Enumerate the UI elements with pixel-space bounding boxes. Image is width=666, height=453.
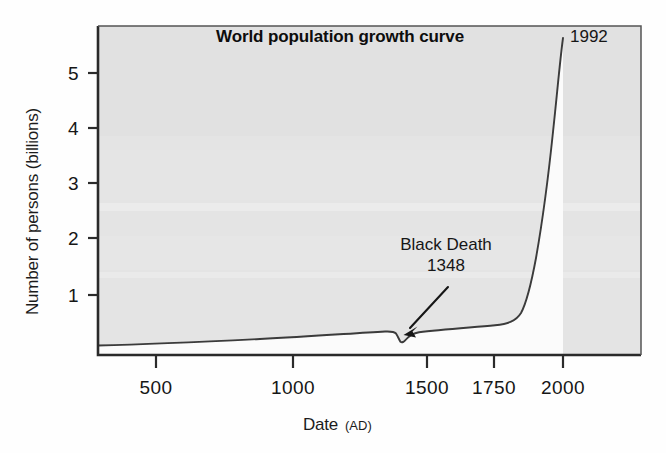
x-axis-title-paren: (AD) [345, 418, 372, 433]
x-axis-title-main: Date [303, 415, 338, 434]
x-tick-label-1500: 1500 [405, 377, 449, 398]
endpoint-label-1992: 1992 [570, 27, 608, 46]
y-axis-title: Number of persons (billions) [23, 108, 42, 315]
x-tick-label-500: 500 [140, 377, 173, 398]
y-tick-label-1: 1 [68, 285, 79, 306]
black-death-year: 1348 [427, 256, 465, 275]
x-tick-label-2000: 2000 [541, 377, 585, 398]
y-tick-label-4: 4 [68, 118, 79, 139]
y-tick-label-5: 5 [68, 63, 79, 84]
y-tick-label-3: 3 [68, 173, 79, 194]
x-tick-label-1750: 1750 [472, 377, 516, 398]
figure-container: 5 4 3 2 1 500 1000 1500 1750 2000 World … [0, 0, 666, 453]
black-death-label: Black Death [400, 235, 492, 254]
world-population-chart: 5 4 3 2 1 500 1000 1500 1750 2000 World … [0, 0, 666, 453]
chart-title: World population growth curve [216, 27, 464, 46]
x-tick-label-1000: 1000 [271, 377, 315, 398]
y-tick-label-2: 2 [68, 228, 79, 249]
